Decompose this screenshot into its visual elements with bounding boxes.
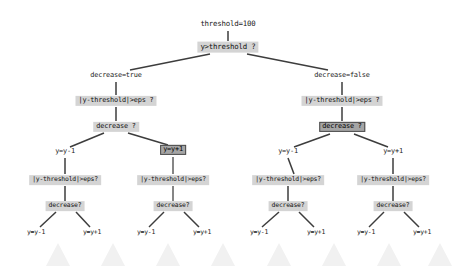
leaf-node: y=y+1: [190, 228, 214, 238]
leaf-node: y=y+1: [304, 228, 328, 238]
leaf-node: y=y-1: [354, 228, 378, 238]
node-root-param: threshold=100: [197, 19, 258, 30]
edge: [128, 133, 168, 145]
node-decrease-false: decrease=false: [311, 71, 372, 81]
node-eps-test-b[interactable]: |y-threshold|>eps?: [137, 175, 209, 185]
node-y-dec-a: y=y-1: [52, 147, 78, 157]
edge: [294, 134, 330, 147]
node-decrease-true: decrease=true: [87, 71, 144, 81]
edge: [404, 212, 419, 227]
node-y-inc-b-selected[interactable]: y=y+1: [160, 145, 186, 155]
edge: [369, 212, 384, 227]
leaf-node: y=y-1: [24, 228, 48, 238]
node-decrease-test-right[interactable]: decrease ?: [319, 122, 365, 132]
edge: [70, 133, 104, 147]
node-decrease-b[interactable]: decrease?: [154, 201, 193, 211]
node-eps-test-d[interactable]: |y-threshold|>eps?: [357, 175, 429, 185]
edge: [130, 54, 210, 70]
leaf-node: y=y+1: [410, 228, 434, 238]
edge: [299, 212, 314, 227]
node-eps-test-right[interactable]: |y-threshold|>eps ?: [301, 96, 382, 106]
node-y-dec-c: y=y-1: [275, 147, 301, 157]
node-eps-test-left[interactable]: |y-threshold|>eps ?: [75, 96, 156, 106]
node-decrease-test-left[interactable]: decrease ?: [93, 122, 139, 132]
node-eps-test-c[interactable]: |y-threshold|>eps?: [252, 175, 324, 185]
node-root-test[interactable]: y>threshold ?: [197, 42, 258, 53]
edge: [76, 212, 90, 227]
node-y-inc-d: y=y+1: [380, 147, 406, 157]
edge: [149, 212, 164, 227]
leaf-node: y=y-1: [247, 228, 271, 238]
edge: [354, 134, 388, 147]
edge: [184, 212, 199, 227]
edge: [262, 212, 279, 227]
leaf-node: y=y+1: [80, 228, 104, 238]
node-eps-test-a[interactable]: |y-threshold|>eps?: [29, 175, 101, 185]
leaf-node: y=y-1: [134, 228, 158, 238]
edge: [247, 54, 328, 70]
decision-tree-diagram: threshold=100 y>threshold ? decrease=tru…: [0, 0, 457, 271]
node-decrease-a[interactable]: decrease?: [46, 201, 85, 211]
edge: [288, 158, 294, 174]
node-decrease-d[interactable]: decrease?: [374, 201, 413, 211]
edge: [40, 212, 56, 227]
node-decrease-c[interactable]: decrease?: [269, 201, 308, 211]
